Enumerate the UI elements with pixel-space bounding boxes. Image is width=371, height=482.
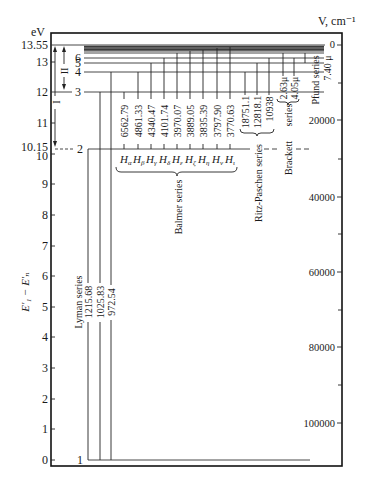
right-tick-label: 0 [330,39,335,50]
symbol-subscript: ν [220,159,224,167]
symbol-subscript: α [128,159,132,167]
balmer-wavelength-label: 4340.47 [146,105,157,138]
arrow-up-icon [53,46,57,52]
ionization-arrow-label: I [51,100,62,103]
right-tick-label: 40000 [309,192,335,203]
left-tick-label: 6 [42,269,48,283]
balmer-wavelength-label: 4861.33 [133,105,144,138]
balmer-symbol: Hι [224,153,235,167]
left-axis-unit: eV [31,25,45,39]
symbol-subscript: δ [167,159,171,167]
left-tick-label: 9 [42,177,48,191]
symbol-subscript: ζ [193,159,197,167]
balmer-symbol: Hζ [184,153,197,167]
paschen-wavelength-label: 12818.1 [252,96,263,129]
pfund-series-label: Pfund series [310,55,321,104]
symbol-subscript: ι [233,159,235,167]
lyman-wavelength-label: 1215.68 [83,286,94,319]
right-tick-label: 100000 [304,418,336,429]
level-label-n1: 1 [77,453,83,467]
right-axis-unit: V, cm⁻¹ [318,14,356,28]
brackett-wavelength-label: 2.63μ [278,77,289,100]
level-label-n3: 3 [75,85,81,99]
brackett-wavelength-label: 4.05μ [289,77,300,100]
lyman-series: Lyman series 1215.68 1025.83 972.54 [73,72,117,460]
hydrogen-energy-level-diagram: eV V, cm⁻¹ E′₁ − E′ₙ 13.55 13 12 11 10.1… [0,0,371,482]
balmer-symbol: Hγ [145,153,157,167]
energy-arrows: I II [51,46,70,147]
balmer-series: 6562.79 4861.33 4340.47 4101.74 3970.07 … [116,47,237,234]
left-axis-labels: 13.55 13 12 11 10.15 10 9 8 7 6 5 4 3 2 … [21,38,48,467]
balmer-wavelength-label: 3970.07 [172,105,183,138]
arrow-down-icon [53,141,57,147]
right-tick-label: 20000 [309,115,335,126]
balmer-symbol: Hα [119,153,132,167]
left-tick-label: 2 [42,392,48,406]
paschen-series: 18751.1 12818.1 10938 Ritz-Paschen serie… [240,58,275,222]
balmer-symbol: Hβ [132,153,145,167]
paschen-wavelength-label: 18751.1 [240,96,251,129]
lyman-wavelength-label: 1025.83 [95,286,106,319]
balmer-wavelength-label: 3835.39 [198,105,209,138]
right-tick-label: 60000 [309,267,335,278]
arrow-up-icon [62,46,66,52]
paschen-series-label: Ritz-Paschen series [253,144,264,222]
left-tick-label: 3 [42,361,48,375]
paschen-brace [240,129,274,136]
lyman-wavelength-label: 972.54 [106,288,117,316]
balmer-wavelength-label: 3770.63 [225,105,236,138]
left-tick-label: 12 [36,85,48,99]
left-tick-label: 8 [42,208,48,222]
left-tick-label: 10 [36,149,48,163]
balmer-symbol: Hδ [158,153,171,167]
arrow-down-icon [62,84,66,90]
balmer-wavelength-label: 3889.05 [185,105,196,138]
symbol-subscript: ε [180,159,183,167]
brackett-series-suffix: series [283,104,294,127]
paschen-wavelength-label: 10938 [264,97,275,122]
symbol-subscript: η [206,159,210,167]
level-label-n2: 2 [77,142,83,156]
balmer-symbol: Hε [171,153,183,167]
brackett-series: 2.63μ 4.05μ series Brackett [277,53,300,175]
left-axis-title: E′₁ − E′ₙ [19,272,31,312]
left-tick-label: 11 [36,116,48,130]
balmer-series-label: Balmer series [173,180,184,235]
balmer-wavelength-label: 6562.79 [119,105,130,138]
excitation-arrow-label: II [59,68,70,75]
level-label-n4: 4 [75,65,81,79]
right-tick-label: 80000 [309,342,335,353]
symbol-subscript: β [140,159,145,167]
left-tick-label: 13 [36,55,48,69]
symbol-subscript: γ [154,159,157,167]
balmer-brace [116,167,237,176]
balmer-symbol: Hη [197,153,210,167]
left-tick-label: 0 [42,453,48,467]
left-tick-label: 4 [42,330,48,344]
left-tick-label: 5 [42,300,48,314]
left-tick-label: 7 [42,239,48,253]
balmer-symbol: Hν [211,153,224,167]
pfund-series: Pfund series 7.40 μ [305,53,333,105]
left-tick-label: 1 [42,422,48,436]
left-tick-label: 13.55 [21,38,48,52]
pfund-wavelength-label: 7.40 μ [322,55,333,80]
brackett-series-label: Brackett [283,141,294,175]
balmer-wavelength-label: 3797.90 [212,105,223,138]
balmer-wavelength-label: 4101.74 [159,105,170,138]
